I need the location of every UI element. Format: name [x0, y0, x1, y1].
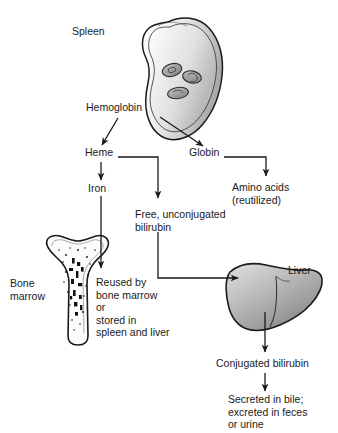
node-free-unconjugated-bilirubin: Free, unconjugated bilirubin [135, 208, 225, 233]
node-globin: Globin [189, 146, 219, 159]
node-hemoglobin: Hemoglobin [86, 101, 142, 114]
organ-label-bone-marrow: Bone marrow [10, 277, 45, 302]
node-reused-by-bone-marrow: Reused by bone marrow or stored in splee… [96, 276, 170, 339]
node-amino-acids: Amino acids (reutilized) [232, 181, 289, 206]
node-iron: Iron [88, 182, 106, 195]
spleen-illustration [142, 18, 222, 140]
node-heme: Heme [85, 146, 113, 159]
flow-arrows [101, 117, 266, 391]
hemoglobin-breakdown-diagram: Spleen Bone marrow Liver Hemoglobin Heme… [0, 0, 338, 433]
node-conjugated-bilirubin: Conjugated bilirubin [216, 357, 309, 370]
organ-label-spleen: Spleen [72, 25, 105, 38]
organ-label-liver: Liver [288, 264, 311, 277]
node-secreted-in-bile: Secreted in bile; excreted in feces or u… [228, 393, 307, 431]
